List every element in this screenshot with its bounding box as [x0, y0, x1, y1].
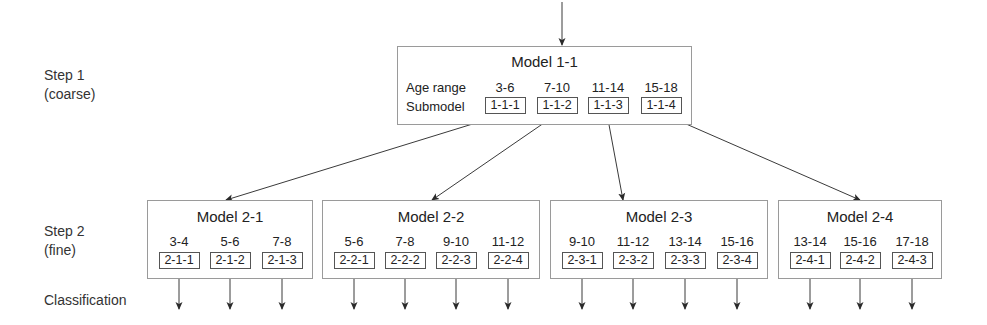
age-range: 11-14: [583, 80, 633, 95]
submodel-box: 2-1-2: [210, 252, 251, 269]
age-range: 5-6: [205, 234, 255, 249]
age-range: 15-16: [835, 234, 885, 249]
submodel-box: 2-3-2: [613, 252, 654, 269]
model-title: Model 1-1: [398, 53, 691, 70]
arrow-1-1-3-to-model-2-3: [607, 114, 623, 200]
submodel-box: 1-1-3: [588, 97, 629, 114]
submodel-box: 2-2-4: [488, 252, 529, 269]
age-range: 9-10: [431, 234, 481, 249]
step2-label: Step 2 (fine): [44, 222, 84, 260]
step1-subtitle: (coarse): [44, 85, 95, 104]
step1-label: Step 1 (coarse): [44, 66, 95, 104]
arrow-1-1-2-to-model-2-2: [432, 114, 557, 200]
step2-subtitle: (fine): [44, 241, 84, 260]
age-range: 9-10: [557, 234, 607, 249]
age-range: 7-8: [257, 234, 307, 249]
classification-label: Classification: [44, 291, 126, 310]
age-range: 11-12: [608, 234, 658, 249]
submodel-box: 1-1-4: [641, 97, 682, 114]
submodel-box: 2-3-3: [665, 252, 706, 269]
submodel-label: Submodel: [406, 99, 465, 114]
model-title: Model 2-1: [148, 208, 312, 225]
submodel-box: 2-4-2: [840, 252, 881, 269]
age-range: 5-6: [329, 234, 379, 249]
age-range: 3-6: [480, 80, 530, 95]
arrow-1-1-1-to-model-2-1: [226, 114, 505, 200]
submodel-box: 2-2-1: [334, 252, 375, 269]
age-range: 7-10: [532, 80, 582, 95]
model-title: Model 2-2: [323, 208, 539, 225]
step2-title: Step 2: [44, 222, 84, 241]
submodel-box: 2-2-2: [385, 252, 426, 269]
submodel-box: 2-1-1: [159, 252, 200, 269]
submodel-box: 2-4-1: [790, 252, 831, 269]
model-title: Model 2-3: [551, 208, 767, 225]
submodel-box: 1-1-2: [537, 97, 578, 114]
submodel-box: 2-3-4: [717, 252, 758, 269]
age-range: 3-4: [154, 234, 204, 249]
submodel-box: 2-4-3: [892, 252, 933, 269]
age-range: 13-14: [785, 234, 835, 249]
arrow-1-1-4-to-model-2-4: [661, 113, 860, 200]
age-range: 17-18: [887, 234, 937, 249]
submodel-box: 1-1-1: [485, 97, 526, 114]
age-range: 15-16: [712, 234, 762, 249]
age-range: 11-12: [483, 234, 533, 249]
age-range: 15-18: [636, 80, 686, 95]
age-range: 7-8: [380, 234, 430, 249]
step1-title: Step 1: [44, 66, 95, 85]
submodel-box: 2-2-3: [436, 252, 477, 269]
submodel-box: 2-1-3: [262, 252, 303, 269]
age-range-label: Age range: [406, 80, 466, 95]
model-title: Model 2-4: [779, 208, 941, 225]
age-range: 13-14: [660, 234, 710, 249]
submodel-box: 2-3-1: [562, 252, 603, 269]
